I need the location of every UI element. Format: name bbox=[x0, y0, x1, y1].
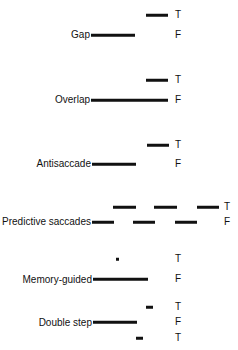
target-timing-bar bbox=[113, 206, 136, 209]
panel-label-double-step: Double step bbox=[39, 317, 92, 329]
target-timing-bar bbox=[146, 14, 168, 17]
target-row-label: T bbox=[175, 9, 181, 21]
target-timing-bar bbox=[197, 206, 219, 209]
target-row-label: T bbox=[224, 201, 230, 213]
target-row-label: T bbox=[175, 301, 181, 313]
panel-label-gap: Gap bbox=[71, 29, 90, 41]
target-row-label: T bbox=[175, 139, 181, 151]
target-row-label: T bbox=[175, 253, 181, 265]
target-row-label: T bbox=[175, 74, 181, 86]
fixation-row-label: F bbox=[175, 316, 181, 328]
fixation-timing-bar bbox=[175, 221, 197, 224]
fixation-timing-bar bbox=[93, 321, 137, 324]
panel-label-antisaccade: Antisaccade bbox=[37, 158, 91, 170]
target-timing-bar bbox=[146, 79, 168, 82]
target-timing-bar bbox=[136, 337, 143, 340]
panel-label-memory-guided: Memory-guided bbox=[23, 274, 92, 286]
target-timing-bar bbox=[146, 306, 153, 309]
fixation-timing-bar bbox=[92, 163, 136, 166]
fixation-timing-bar bbox=[91, 99, 168, 102]
fixation-timing-bar bbox=[91, 34, 135, 37]
panel-label-overlap: Overlap bbox=[55, 94, 90, 106]
panel-label-predictive-saccades: Predictive saccades bbox=[2, 216, 91, 228]
fixation-row-label: F bbox=[224, 216, 230, 228]
fixation-row-label: F bbox=[175, 273, 181, 285]
fixation-row-label: F bbox=[175, 29, 181, 41]
target-row-label: T bbox=[175, 332, 181, 344]
fixation-timing-bar bbox=[92, 221, 114, 224]
target-timing-bar bbox=[154, 206, 177, 209]
fixation-timing-bar bbox=[93, 278, 148, 281]
fixation-row-label: F bbox=[175, 158, 181, 170]
fixation-timing-bar bbox=[133, 221, 155, 224]
target-timing-bar bbox=[116, 258, 119, 261]
fixation-row-label: F bbox=[175, 94, 181, 106]
target-timing-bar bbox=[147, 144, 169, 147]
